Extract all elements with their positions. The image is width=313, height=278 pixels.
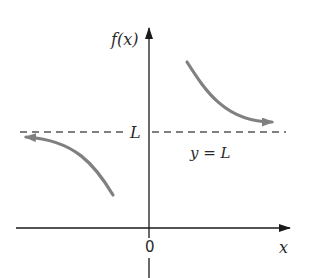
origin-label: 0 — [145, 238, 155, 256]
asymptote-equation-label: y = L — [189, 144, 231, 162]
curve-right-branch — [187, 62, 272, 122]
x-axis-label: x — [279, 238, 288, 257]
curve-left-branch — [26, 137, 113, 195]
asymptote-value-label: L — [129, 123, 141, 142]
asymptote-diagram: f(x) L y = L 0 x — [0, 0, 313, 278]
y-axis-label: f(x) — [110, 30, 138, 49]
